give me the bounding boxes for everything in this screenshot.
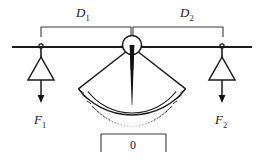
label-distance-right-subscript: 2	[189, 13, 193, 23]
label-force-right-subscript: 2	[223, 120, 227, 130]
label-force-left-subscript: 1	[42, 120, 46, 130]
label-distance-left-base: D	[75, 5, 86, 20]
physics-lever-diagram: D1 D2 F1	[0, 0, 263, 160]
diagram-canvas: D1 D2 F1	[0, 0, 263, 160]
label-distance-left-subscript: 1	[85, 13, 89, 23]
gauge-reading-value: 0	[130, 138, 136, 152]
label-distance-right-base: D	[179, 5, 190, 20]
